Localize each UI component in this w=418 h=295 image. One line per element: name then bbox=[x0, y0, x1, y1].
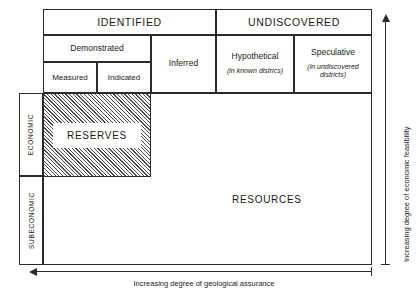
vertical-axis-line bbox=[385, 22, 386, 265]
header-indicated-label: Indicated bbox=[108, 73, 140, 82]
reserves-block: RESERVES bbox=[43, 93, 151, 177]
header-identified: IDENTIFIED bbox=[43, 9, 216, 35]
header-demonstrated-label: Demonstrated bbox=[70, 44, 123, 54]
side-label-subeconomic: SUBECONOMIC bbox=[19, 176, 43, 265]
side-label-economic-text: ECONOMIC bbox=[28, 114, 35, 155]
horizontal-axis-arrowhead-icon bbox=[29, 268, 37, 276]
header-identified-label: IDENTIFIED bbox=[97, 16, 161, 28]
vertical-axis-arrowhead-icon bbox=[382, 14, 390, 22]
side-label-economic: ECONOMIC bbox=[19, 93, 43, 176]
header-hypothetical-note: (in known districs) bbox=[227, 67, 283, 75]
vertical-axis-base-cap bbox=[381, 264, 390, 265]
header-indicated: Indicated bbox=[97, 62, 151, 93]
horizontal-axis-line bbox=[37, 271, 372, 272]
resources-label: RESOURCES bbox=[232, 194, 302, 205]
mckelvey-box-diagram: IDENTIFIED UNDISCOVERED Demonstrated Inf… bbox=[0, 0, 418, 295]
header-inferred-label: Inferred bbox=[169, 59, 198, 69]
header-speculative: Speculative (in undiscovered districts) bbox=[294, 35, 372, 93]
economic-subeconomic-divider bbox=[19, 176, 43, 177]
header-measured: Measured bbox=[43, 62, 97, 93]
header-demonstrated: Demonstrated bbox=[43, 35, 151, 62]
vertical-axis-label: Increasing degree of economic feasibilit… bbox=[402, 127, 411, 263]
header-speculative-note: (in undiscovered districts) bbox=[295, 63, 371, 80]
header-undiscovered-label: UNDISCOVERED bbox=[248, 16, 340, 28]
side-label-subeconomic-text: SUBECONOMIC bbox=[28, 192, 35, 249]
horizontal-axis-base-cap bbox=[371, 267, 372, 276]
header-inferred: Inferred bbox=[151, 35, 216, 93]
header-speculative-label: Speculative bbox=[311, 48, 355, 58]
horizontal-axis-label: Increasing degree of geological assuranc… bbox=[29, 279, 379, 288]
header-hypothetical: Hypothetical (in known districs) bbox=[216, 35, 294, 93]
header-hypothetical-label: Hypothetical bbox=[232, 52, 279, 62]
header-undiscovered: UNDISCOVERED bbox=[216, 9, 372, 35]
header-measured-label: Measured bbox=[52, 73, 88, 82]
reserves-label: RESERVES bbox=[53, 123, 141, 148]
